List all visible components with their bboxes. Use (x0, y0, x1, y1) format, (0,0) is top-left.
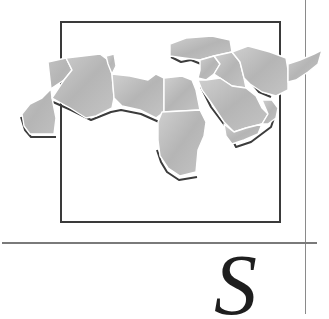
region-egypt (164, 76, 200, 112)
region-afghanistan (288, 50, 322, 82)
region-libya (112, 74, 164, 118)
horizontal-rule (2, 242, 317, 244)
drop-cap-letter: S (214, 242, 257, 319)
region-sudan (158, 110, 206, 176)
region-map-illustration (0, 0, 329, 200)
